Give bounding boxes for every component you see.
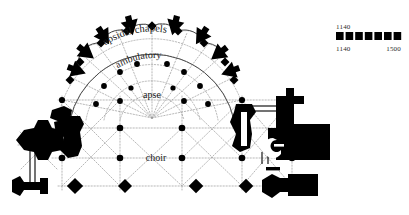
cathedral-plan-drawing: apsidal chapels ambulatory apse choir 11… (0, 0, 409, 215)
label-choir: choir (146, 152, 167, 163)
stair-dash (266, 167, 280, 170)
legend-start-label: 1140 (336, 45, 351, 53)
legend-date-scale: 1140 1140 1500 (336, 23, 401, 53)
floor-plan-figure: apsidal chapels ambulatory apse choir 11… (0, 0, 409, 215)
plan-label-group: apsidal chapels ambulatory apse choir (101, 23, 168, 163)
label-apsidal-chapels: apsidal chapels (101, 23, 168, 47)
rib-vault-lines (18, 24, 300, 190)
legend-end-label: 1500 (386, 45, 401, 53)
legend-top-label: 1140 (336, 23, 351, 31)
label-apse: apse (143, 89, 161, 100)
masonry-piers (12, 14, 330, 198)
upper-left-buttress (50, 106, 72, 122)
legend-bar (336, 32, 401, 40)
